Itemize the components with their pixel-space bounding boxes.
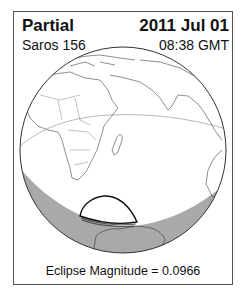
eclipse-time-label: 08:38 GMT <box>159 37 229 53</box>
eclipse-magnitude-label: Eclipse Magnitude = 0.0966 <box>0 264 246 278</box>
eclipse-date-label: 2011 Jul 01 <box>139 16 229 36</box>
saros-label: Saros 156 <box>22 37 86 53</box>
eclipse-type-label: Partial <box>22 16 74 36</box>
